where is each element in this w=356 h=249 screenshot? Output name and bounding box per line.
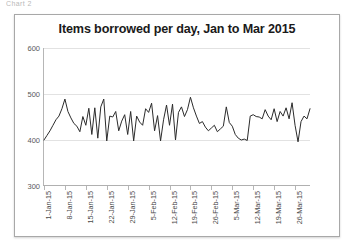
x-axis-tick <box>65 186 66 190</box>
x-axis-tick-label: 1-Jan-15 <box>44 191 53 219</box>
x-axis-tick <box>170 186 171 190</box>
x-axis-tick <box>44 186 45 190</box>
x-axis-tick <box>253 186 254 190</box>
x-axis-tick-label: 12-Mar-15 <box>253 191 262 224</box>
series-path <box>44 97 310 142</box>
x-axis-tick <box>107 186 108 190</box>
x-axis-tick <box>232 186 233 190</box>
chart-title: Items borrowed per day, Jan to Mar 2015 <box>15 22 339 36</box>
x-axis-tick-label: 5-Feb-15 <box>149 191 158 220</box>
y-axis-tick-label: 300 <box>27 182 40 191</box>
document-caption: Chart 2 <box>6 0 126 10</box>
y-axis-tick-label: 500 <box>27 90 40 99</box>
x-axis-tick-label: 29-Jan-15 <box>128 191 137 223</box>
series-line-chart <box>44 48 310 186</box>
x-axis-tick-label: 8-Jan-15 <box>65 191 74 219</box>
x-axis-tick-label: 15-Jan-15 <box>86 191 95 223</box>
x-axis-tick-label: 12-Feb-15 <box>170 191 179 224</box>
plot-area: 300400500600 1-Jan-158-Jan-1515-Jan-1522… <box>44 48 310 186</box>
x-axis-tick <box>295 186 296 190</box>
x-axis-tick <box>274 186 275 190</box>
x-axis-tick <box>86 186 87 190</box>
x-axis-tick-label: 19-Feb-15 <box>190 191 199 224</box>
x-axis-tick-label: 19-Mar-15 <box>274 191 283 224</box>
x-axis-tick-label: 26-Feb-15 <box>211 191 220 224</box>
y-axis-tick-label: 400 <box>27 136 40 145</box>
x-axis-tick <box>149 186 150 190</box>
x-axis-tick-label: 26-Mar-15 <box>295 191 304 224</box>
y-axis-tick-label: 600 <box>27 44 40 53</box>
chart-container: Items borrowed per day, Jan to Mar 2015 … <box>14 14 340 237</box>
x-axis-tick-label: 22-Jan-15 <box>107 191 116 223</box>
x-axis-tick <box>211 186 212 190</box>
x-axis-tick <box>190 186 191 190</box>
x-axis-tick-label: 5-Mar-15 <box>232 191 241 220</box>
x-axis-tick <box>128 186 129 190</box>
